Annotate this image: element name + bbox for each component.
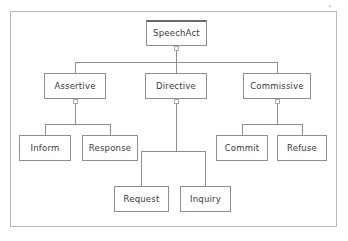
node-label: Commit: [225, 144, 260, 153]
node-refuse[interactable]: Refuse: [277, 135, 327, 161]
node-commissive[interactable]: Commissive: [243, 73, 311, 99]
node-label: Response: [89, 144, 131, 153]
node-request[interactable]: Request: [114, 186, 169, 212]
node-commit[interactable]: Commit: [216, 135, 268, 161]
node-label: Assertive: [54, 82, 95, 91]
scan-artifact-dot: [329, 5, 331, 7]
node-inquiry[interactable]: Inquiry: [180, 186, 231, 212]
node-response[interactable]: Response: [82, 135, 138, 161]
node-label: SpeechAct: [153, 29, 200, 38]
node-assertive[interactable]: Assertive: [44, 73, 106, 99]
diagram-canvas: SpeechAct Assertive Directive Commissive…: [0, 0, 348, 241]
node-label: Commissive: [250, 82, 304, 91]
node-label: Inform: [31, 144, 60, 153]
node-inform[interactable]: Inform: [19, 135, 71, 161]
node-label: Request: [124, 195, 160, 204]
node-speechact[interactable]: SpeechAct: [146, 20, 207, 46]
node-directive[interactable]: Directive: [145, 73, 207, 99]
node-label: Refuse: [287, 144, 317, 153]
node-label: Inquiry: [190, 195, 221, 204]
node-label: Directive: [156, 82, 196, 91]
